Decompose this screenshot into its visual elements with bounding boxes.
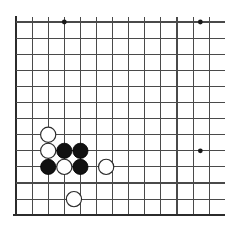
black-stone-c4r9[interactable] [73, 159, 88, 174]
white-stone-c2r7[interactable] [41, 127, 56, 142]
star-point-top-right [198, 20, 203, 25]
white-stone-c2r8[interactable] [41, 143, 56, 158]
go-board-container [0, 0, 225, 231]
go-board-grid[interactable] [0, 0, 225, 231]
star-point-right [198, 148, 203, 153]
white-stone-c3r9[interactable] [57, 159, 72, 174]
white-stone-c5r9[interactable] [99, 159, 114, 174]
black-stone-c4r8[interactable] [73, 143, 88, 158]
black-stone-c2r9[interactable] [41, 159, 56, 174]
star-point-top-left [62, 20, 67, 25]
black-stone-c3r8[interactable] [57, 143, 72, 158]
white-stone-c3r11[interactable] [66, 192, 81, 207]
